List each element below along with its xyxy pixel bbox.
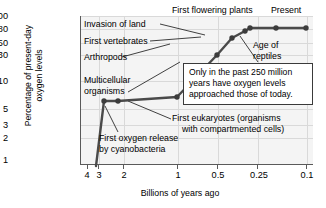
annotation-multicellular-line1: Multicellular xyxy=(84,75,130,86)
y-tick-2: 2 xyxy=(0,133,8,143)
x-tick-0.5: 0.5 xyxy=(198,170,238,180)
y-axis-label-line1: Percentage of present-day xyxy=(23,25,33,126)
annotation-first-vertebrates: First vertebrates xyxy=(84,36,148,47)
annotation-first-oxygen-line1: First oxygen release xyxy=(99,133,178,144)
x-axis-label: Billions of years ago xyxy=(80,188,280,198)
y-tick-1: 1 xyxy=(0,155,8,165)
annotation-multicellular-line2: organisms xyxy=(84,86,125,97)
callout-line3: approached those of today. xyxy=(189,89,308,100)
oxygen-history-chart: Percentage of present-day oxygen levels … xyxy=(0,0,326,208)
x-tickmark-0.5 xyxy=(217,165,218,169)
x-tickmark-0.25 xyxy=(257,165,258,169)
annotation-age-of-line2: reptiles xyxy=(253,51,281,62)
x-tick-2: 2 xyxy=(104,170,144,180)
callout-line2: years have oxygen levels xyxy=(189,78,308,89)
y-axis-label-line2: oxygen levels xyxy=(33,0,44,166)
x-tickmark-0.1 xyxy=(306,165,307,169)
grid-line-h6 xyxy=(81,109,313,110)
x-tickmark-3 xyxy=(98,165,99,169)
annotation-arthropods: Arthropods xyxy=(84,52,127,63)
callout-line1: Only in the past 250 million xyxy=(189,67,308,78)
annotation-age-of-line1: Age of xyxy=(253,40,278,51)
x-tickmark-1 xyxy=(177,165,178,169)
annotation-first-eukaryotes-line2: with compartmented cells) xyxy=(182,124,284,135)
y-tick-100: 100 xyxy=(0,11,8,21)
y-tick-30: 30 xyxy=(0,50,8,60)
y-tick-3: 3 xyxy=(0,120,8,130)
y-tick-50: 50 xyxy=(0,38,8,48)
annotation-first-flowering-plants: First flowering plants xyxy=(172,5,253,16)
x-tick-1: 1 xyxy=(158,170,198,180)
callout-box: Only in the past 250 million years have … xyxy=(183,63,313,105)
annotation-present: Present xyxy=(271,5,301,16)
y-tick-5: 5 xyxy=(0,104,8,114)
y-tick-10: 10 xyxy=(0,76,8,86)
x-tickmark-4 xyxy=(87,165,88,169)
y-tick-80: 80 xyxy=(0,24,8,34)
grid-line-h1 xyxy=(81,16,313,17)
annotation-invasion-of-land: Invasion of land xyxy=(84,19,146,30)
x-tickmark-2 xyxy=(123,165,124,169)
annotation-first-oxygen-line2: by cyanobacteria xyxy=(99,144,166,155)
y-axis-label: Percentage of present-day oxygen levels xyxy=(23,0,44,166)
x-tick-0.25: 0.25 xyxy=(239,170,279,180)
annotation-first-eukaryotes-line1: First eukaryotes (organisms xyxy=(172,113,281,124)
x-tick-0.1: 0.1 xyxy=(287,170,326,180)
